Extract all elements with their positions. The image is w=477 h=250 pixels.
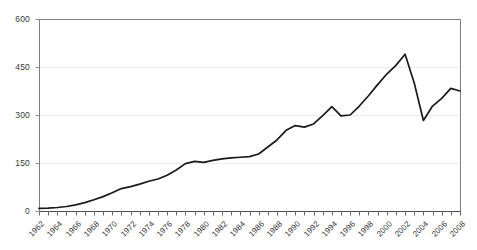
data-series-line xyxy=(39,54,460,208)
y-axis-tick-label: 600 xyxy=(0,14,30,24)
chart-plot-svg xyxy=(0,0,477,250)
y-axis-tick-label: 450 xyxy=(0,62,30,72)
x-axis-ticks xyxy=(40,212,461,216)
y-axis-tick-label: 0 xyxy=(0,206,30,216)
y-axis-tick-label: 300 xyxy=(0,110,30,120)
y-axis-ticks xyxy=(36,20,40,212)
line-chart: 6004503001500 19621964196619681970197219… xyxy=(0,0,477,250)
gridlines xyxy=(39,20,460,164)
y-axis-tick-label: 150 xyxy=(0,158,30,168)
